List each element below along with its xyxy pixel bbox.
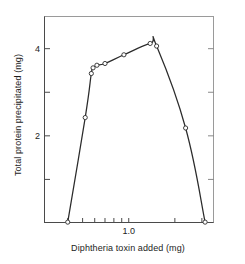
data-point-marker — [95, 63, 99, 67]
data-point-marker — [148, 41, 152, 45]
y-tick-label: 4 — [35, 44, 40, 54]
data-point-marker — [89, 71, 93, 75]
x-axis-title: Diphtheria toxin added (mg) — [38, 243, 218, 253]
data-point-marker — [184, 126, 188, 130]
data-point-marker — [122, 53, 126, 57]
data-point-marker — [203, 220, 207, 224]
chart-canvas — [44, 16, 214, 223]
x-tick-label: 1.0 — [122, 226, 135, 236]
precipitin-curve-figure: Total protein precipitated (mg) 421.0 Di… — [0, 0, 245, 264]
data-point-marker — [66, 220, 70, 224]
plot-area: 421.0 — [44, 16, 214, 223]
y-tick-label: 2 — [35, 131, 40, 141]
data-point-marker — [83, 115, 87, 119]
data-point-marker — [91, 66, 95, 70]
y-axis-title: Total protein precipitated (mg) — [10, 15, 26, 215]
data-point-marker — [103, 61, 107, 65]
data-point-marker — [155, 44, 159, 48]
